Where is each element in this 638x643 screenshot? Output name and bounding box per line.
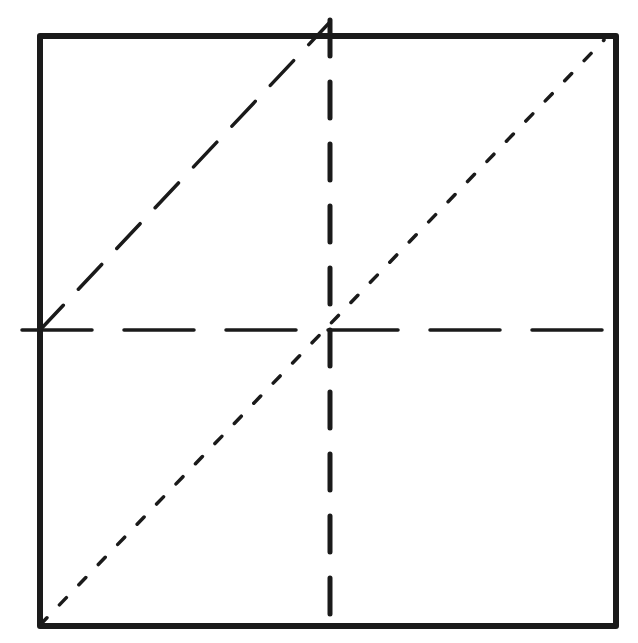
diagram-canvas <box>0 0 638 643</box>
sketch-svg <box>0 0 638 643</box>
background <box>0 0 638 643</box>
